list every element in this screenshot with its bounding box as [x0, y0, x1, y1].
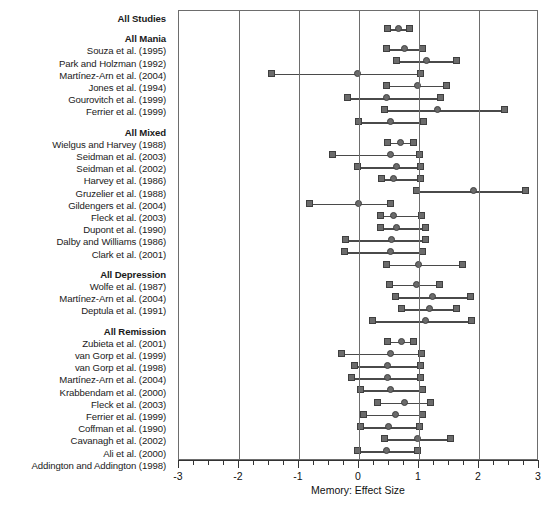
- ci-lower-marker: [329, 151, 336, 158]
- ci-lower-marker: [268, 70, 275, 77]
- ci-upper-marker: [427, 399, 434, 406]
- ci-upper-marker: [406, 25, 413, 32]
- study-label: Harvey et al. (1986): [84, 176, 166, 186]
- confidence-interval-line: [332, 155, 419, 157]
- ci-lower-marker: [369, 317, 376, 324]
- confidence-interval-line: [380, 216, 421, 218]
- point-estimate-marker: [401, 399, 408, 406]
- point-estimate-marker: [390, 212, 397, 219]
- ci-upper-marker: [436, 281, 443, 288]
- point-estimate-marker: [393, 224, 400, 231]
- gridline--2: [239, 11, 240, 459]
- study-label: Ferrier et al. (1999): [86, 412, 166, 422]
- gridline-2: [479, 11, 480, 459]
- axis-tick: [343, 460, 344, 465]
- axis-tick: [238, 460, 239, 468]
- ci-lower-marker: [383, 261, 390, 268]
- study-label: Ali et al. (2000): [103, 449, 166, 459]
- axis-tick: [373, 460, 374, 465]
- axis-tick: [328, 460, 329, 465]
- point-estimate-marker: [398, 338, 405, 345]
- study-label: Krabbendam et al. (2000): [60, 388, 166, 398]
- axis-tick: [403, 460, 404, 465]
- plot-area: [178, 10, 538, 460]
- ci-upper-marker: [419, 45, 426, 52]
- gridline-1: [419, 11, 420, 459]
- study-label: Seidman et al. (2002): [76, 164, 166, 174]
- confidence-interval-line: [345, 240, 425, 242]
- ci-upper-marker: [459, 261, 466, 268]
- ci-lower-marker: [381, 106, 388, 113]
- ci-upper-marker: [410, 338, 417, 345]
- study-label: Fleck et al. (2003): [91, 400, 166, 410]
- ci-upper-marker: [422, 236, 429, 243]
- axis-tick: [268, 460, 269, 465]
- axis-tick: [478, 460, 479, 468]
- axis-tick: [283, 460, 284, 465]
- study-label: van Gorp et al. (1999): [75, 351, 166, 361]
- ci-upper-marker: [447, 435, 454, 442]
- study-label: Clark et al. (2001): [92, 250, 166, 260]
- ci-lower-marker: [384, 139, 391, 146]
- ci-lower-marker: [374, 399, 381, 406]
- point-estimate-marker: [426, 305, 433, 312]
- ci-lower-marker: [383, 45, 390, 52]
- point-estimate-marker: [383, 447, 390, 454]
- point-estimate-marker: [414, 435, 421, 442]
- study-label: Wielgus and Harvey (1988): [52, 140, 166, 150]
- study-label: van Gorp et al. (1998): [75, 363, 166, 373]
- study-label: Gildengers et al. (2004): [68, 201, 166, 211]
- point-estimate-marker: [384, 362, 391, 369]
- ci-lower-marker: [383, 82, 390, 89]
- ci-upper-marker: [443, 82, 450, 89]
- ci-upper-marker: [410, 139, 417, 146]
- study-label: Addington and Addington (1998): [31, 461, 166, 471]
- study-label: Jones et al. (1994): [88, 83, 166, 93]
- ci-lower-marker: [384, 338, 391, 345]
- point-estimate-marker: [397, 139, 404, 146]
- group-label: All Mixed: [125, 128, 166, 138]
- ci-upper-marker: [501, 106, 508, 113]
- ci-upper-marker: [420, 118, 427, 125]
- x-axis-label: Memory: Effect Size: [178, 484, 538, 496]
- ci-upper-marker: [467, 293, 474, 300]
- ci-lower-marker: [377, 212, 384, 219]
- study-label: Zubieta et al. (2001): [82, 339, 166, 349]
- study-label: Park and Holzman (1992): [59, 59, 166, 69]
- axis-tick: [433, 460, 434, 465]
- confidence-interval-line: [344, 252, 422, 254]
- ci-upper-marker: [419, 248, 426, 255]
- ci-upper-marker: [453, 305, 460, 312]
- point-estimate-marker: [390, 175, 397, 182]
- study-label: Dalby and Williams (1986): [57, 237, 166, 247]
- confidence-interval-line: [358, 167, 420, 169]
- confidence-interval-line: [342, 354, 422, 356]
- ci-lower-marker: [341, 248, 348, 255]
- axis-tick-label: -3: [173, 470, 182, 482]
- ci-lower-marker: [377, 224, 384, 231]
- axis-tick: [523, 460, 524, 465]
- axis-tick-label: -1: [293, 470, 302, 482]
- ci-lower-marker: [384, 25, 391, 32]
- axis-tick: [223, 460, 224, 465]
- axis-tick-label: 1: [415, 470, 421, 482]
- gridline-0: [359, 11, 360, 459]
- axis-tick: [313, 460, 314, 465]
- axis-tick: [208, 460, 209, 465]
- point-estimate-marker: [387, 118, 394, 125]
- confidence-interval-line: [382, 179, 421, 181]
- axis-tick: [418, 460, 419, 468]
- gridline--1: [299, 11, 300, 459]
- point-estimate-marker: [387, 151, 394, 158]
- point-estimate-marker: [384, 374, 391, 381]
- study-label-column: All StudiesAll ManiaSouza et al. (1995)P…: [0, 0, 172, 460]
- point-estimate-marker: [470, 187, 477, 194]
- ci-upper-marker: [468, 317, 475, 324]
- ci-upper-marker: [437, 94, 444, 101]
- ci-upper-marker: [522, 187, 529, 194]
- point-estimate-marker: [429, 293, 436, 300]
- ci-lower-marker: [386, 281, 393, 288]
- ci-upper-marker: [419, 386, 426, 393]
- study-label: Ferrier et al. (1999): [86, 107, 166, 117]
- ci-lower-marker: [351, 362, 358, 369]
